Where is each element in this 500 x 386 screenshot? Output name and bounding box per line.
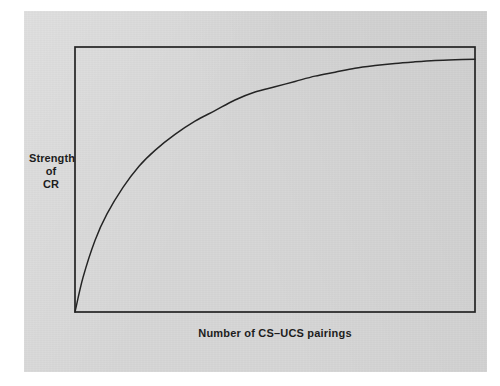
y-axis-label-line-3: CR: [29, 178, 73, 191]
x-axis-label: Number of CS–UCS pairings: [75, 327, 475, 339]
y-axis-label-line-1: Strength: [29, 152, 73, 165]
acquisition-curve: [75, 59, 475, 312]
y-axis-label-line-2: of: [29, 165, 73, 178]
y-axis-label: Strength of CR: [29, 152, 73, 191]
figure-root: Strength of CR Number of CS–UCS pairings: [0, 0, 500, 386]
